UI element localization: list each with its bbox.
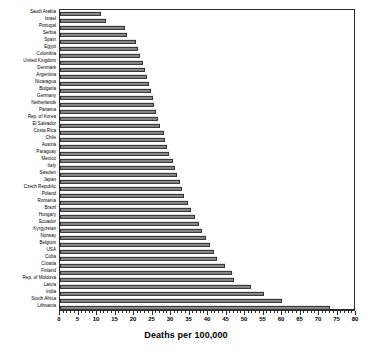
category-label: Bulgaria <box>0 86 58 93</box>
category-label: Italy <box>0 163 58 170</box>
bar-row <box>60 31 356 38</box>
category-label: Sweden <box>0 170 58 177</box>
bar-row <box>60 38 356 45</box>
category-label: Belgium <box>0 240 58 247</box>
category-label: Norway <box>0 233 58 240</box>
bar <box>60 200 188 204</box>
bar-row <box>60 45 356 52</box>
category-label: Rep. of Korea <box>0 114 58 121</box>
bar-row <box>60 262 356 269</box>
category-label: Kyrgyzstan <box>0 226 58 233</box>
category-label: Netherlands <box>0 100 58 107</box>
category-label: Denmark <box>0 65 58 72</box>
bar-row <box>60 17 356 24</box>
category-label: Saudi Arabia <box>0 9 58 16</box>
category-label: Argentina <box>0 72 58 79</box>
bar <box>60 81 149 85</box>
category-label: Poland <box>0 191 58 198</box>
bar <box>60 207 191 211</box>
bar <box>60 214 195 218</box>
category-label: Chile <box>0 135 58 142</box>
x-axis-major-tick <box>152 311 153 315</box>
plot-area <box>59 9 355 310</box>
bar-chart: Saudi ArabiaIsraelPortugalSerbiaSpainEgy… <box>0 0 372 352</box>
bar <box>60 102 154 106</box>
bar <box>60 277 234 281</box>
bar-row <box>60 283 356 290</box>
bar-row <box>60 269 356 276</box>
bar <box>60 109 156 113</box>
bar-row <box>60 115 356 122</box>
bar-row <box>60 234 356 241</box>
bar-row <box>60 206 356 213</box>
category-label: Rep. of Moldova <box>0 275 58 282</box>
bar <box>60 116 158 120</box>
bar-row <box>60 24 356 31</box>
bar <box>60 39 136 43</box>
bar-row <box>60 185 356 192</box>
bar-row <box>60 52 356 59</box>
bar <box>60 263 225 267</box>
bar-row <box>60 59 356 66</box>
category-label: Cuba <box>0 254 58 261</box>
x-axis-major-tick <box>207 311 208 315</box>
bar-row <box>60 108 356 115</box>
category-label: Romania <box>0 198 58 205</box>
bar-row <box>60 101 356 108</box>
category-label: Nicaragua <box>0 79 58 86</box>
bar <box>60 88 151 92</box>
bar <box>60 172 177 176</box>
category-label: Panama <box>0 107 58 114</box>
x-axis-major-tick <box>115 311 116 315</box>
bar-row <box>60 66 356 73</box>
bar <box>60 291 264 295</box>
bar-row <box>60 122 356 129</box>
category-label: Latvia <box>0 282 58 289</box>
bar-row <box>60 290 356 297</box>
x-axis-tick-label: 5 <box>76 316 79 322</box>
bar-row <box>60 129 356 136</box>
x-axis-tick-label: 70 <box>315 316 322 322</box>
bar <box>60 32 127 36</box>
bar <box>60 151 169 155</box>
bar <box>60 67 145 71</box>
bar-row <box>60 213 356 220</box>
bar-row <box>60 192 356 199</box>
bar-row <box>60 227 356 234</box>
bar-row <box>60 143 356 150</box>
category-label: Paraguay <box>0 149 58 156</box>
x-axis-major-tick <box>263 311 264 315</box>
bar <box>60 25 125 29</box>
x-axis-tick-label: 20 <box>130 316 137 322</box>
category-label: Egypt <box>0 44 58 51</box>
x-axis-major-tick <box>189 311 190 315</box>
x-axis-major-tick <box>78 311 79 315</box>
bar <box>60 235 206 239</box>
category-label: Croatia <box>0 261 58 268</box>
x-axis-tick-label: 25 <box>148 316 155 322</box>
bar <box>60 137 165 141</box>
category-label: Finland <box>0 268 58 275</box>
bar <box>60 95 153 99</box>
x-axis-tick-label: 55 <box>259 316 266 322</box>
bar <box>60 193 184 197</box>
category-label: El Salvador <box>0 121 58 128</box>
bar-row <box>60 255 356 262</box>
x-axis-major-tick <box>226 311 227 315</box>
category-label: USA <box>0 247 58 254</box>
bar-row <box>60 164 356 171</box>
bar <box>60 228 202 232</box>
x-axis-tick-label: 15 <box>111 316 118 322</box>
category-label: Colombia <box>0 51 58 58</box>
x-axis-major-tick <box>170 311 171 315</box>
x-axis-major-tick <box>300 311 301 315</box>
x-axis-tick-label: 35 <box>185 316 192 322</box>
category-label: Hungary <box>0 212 58 219</box>
category-label: India <box>0 289 58 296</box>
bar-row <box>60 241 356 248</box>
bar-row <box>60 297 356 304</box>
x-axis-tick-label: 30 <box>167 316 174 322</box>
category-label: Serbia <box>0 30 58 37</box>
bar-row <box>60 80 356 87</box>
bar <box>60 46 138 50</box>
